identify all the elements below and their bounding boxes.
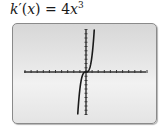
plot-area — [0, 0, 165, 129]
